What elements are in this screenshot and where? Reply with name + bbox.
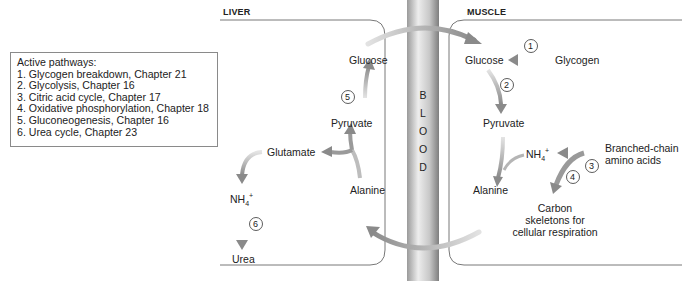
carbon-label-line2: skeletons for: [525, 214, 585, 226]
muscle-nh4-label: NH4+: [526, 147, 549, 162]
blood-letter-l: L: [416, 107, 430, 119]
liver-glucose-label: Glucose: [349, 54, 388, 66]
bcaa-label-line2: amino acids: [605, 154, 661, 166]
legend-item-6: 6. Urea cycle, Chapter 23: [17, 127, 217, 139]
liver-glutamate-label: Glutamate: [267, 146, 315, 158]
muscle-pyruvate-label: Pyruvate: [483, 117, 524, 129]
liver-alanine-label: Alanine: [350, 184, 385, 196]
liver-urea-label: Urea: [232, 253, 255, 265]
carbon-label-line1: Carbon: [538, 202, 572, 214]
legend-item-5: 5. Gluconeogenesis, Chapter 16: [17, 115, 217, 127]
liver-title: LIVER: [223, 7, 251, 17]
muscle-glucose-label: Glucose: [465, 54, 504, 66]
carbon-label-line3: cellular respiration: [512, 226, 597, 238]
step-2-label: 2: [504, 80, 509, 90]
blood-letter-o1: O: [416, 125, 430, 137]
blood-letter-o2: O: [416, 143, 430, 155]
liver-pyruvate-label: Pyruvate: [331, 117, 372, 129]
blood-letter-b: B: [416, 89, 430, 101]
step-1-label: 1: [528, 41, 533, 51]
muscle-glycogen-label: Glycogen: [555, 54, 599, 66]
liver-nh4-label: NH4+: [230, 192, 253, 207]
blood-letter-d: D: [416, 161, 430, 173]
muscle-alanine-label: Alanine: [473, 184, 508, 196]
step-3-label: 3: [589, 161, 594, 171]
step-5-label: 5: [345, 92, 350, 102]
step-6-label: 6: [253, 219, 258, 229]
legend-title: Active pathways:: [17, 57, 217, 69]
blood-vessel: [407, 0, 439, 281]
bcaa-label-line1: Branched-chain: [605, 142, 679, 154]
active-pathways-legend: Active pathways: 1. Glycogen breakdown, …: [10, 52, 218, 147]
step-4-label: 4: [570, 172, 575, 182]
muscle-title: MUSCLE: [467, 7, 506, 17]
